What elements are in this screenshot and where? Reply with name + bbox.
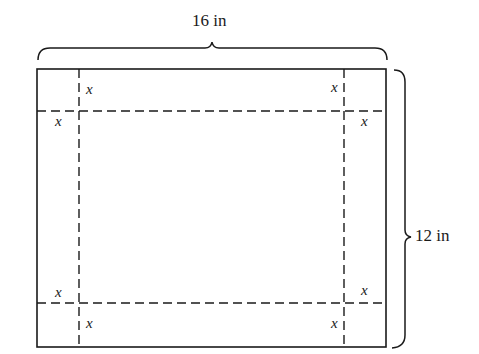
corner-label-top-right-vertical: x (331, 79, 338, 96)
corner-label-bottom-right-horizontal: x (361, 282, 368, 299)
width-brace (38, 42, 387, 60)
width-label: 16 in (192, 11, 226, 31)
corner-label-bottom-left-vertical: x (86, 315, 93, 332)
corner-label-top-right-horizontal: x (361, 113, 368, 130)
corner-label-bottom-right-vertical: x (331, 315, 338, 332)
corner-label-top-left-vertical: x (86, 81, 93, 98)
height-brace (392, 70, 411, 348)
corner-label-top-left-horizontal: x (55, 113, 62, 130)
diagram-canvas (0, 0, 479, 354)
diagram: 16 in 12 in x x x x x x x x (0, 0, 479, 354)
corner-label-bottom-left-horizontal: x (55, 284, 62, 301)
height-label: 12 in (415, 226, 449, 246)
